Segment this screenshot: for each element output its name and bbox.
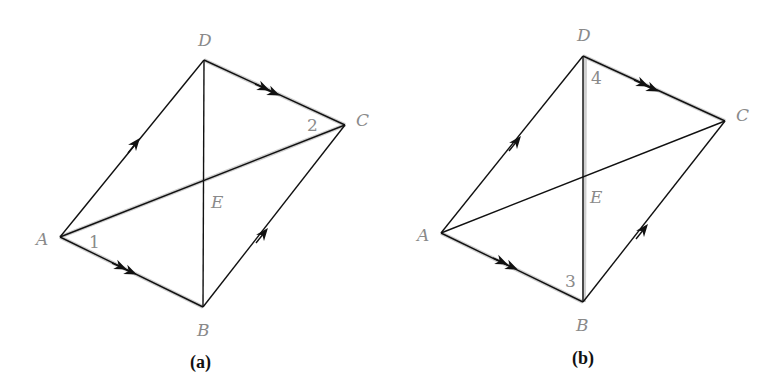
vertex-label-c: C (736, 105, 749, 125)
vertex-label-e: E (210, 192, 224, 212)
vertex-label-a: A (415, 225, 429, 245)
vertex-label-c: C (356, 110, 369, 130)
figure-a: D C A B E 1 2 (a) (34, 30, 369, 373)
angle-label-1: 1 (89, 232, 100, 252)
side-ad (441, 56, 583, 233)
angle-label-3: 3 (565, 271, 576, 291)
side-ab (60, 237, 203, 307)
angle-label-4: 4 (591, 68, 602, 88)
diagonal-ac (60, 125, 345, 237)
diagonal-bd (203, 60, 204, 307)
vertex-label-a: A (34, 229, 48, 249)
vertex-label-d: D (197, 30, 212, 50)
figure-b: D C A B E 4 3 (b) (415, 25, 749, 369)
highlight-diagonal-bd (584, 56, 585, 302)
single-arrow-icon (128, 143, 136, 153)
caption-a: (a) (190, 352, 211, 373)
side-bc (583, 121, 725, 302)
vertex-label-b: B (575, 315, 589, 335)
side-dc (583, 56, 725, 121)
vertex-label-e: E (589, 187, 603, 207)
side-dc (204, 60, 345, 125)
vertex-label-d: D (576, 25, 591, 45)
angle-label-2: 2 (307, 115, 318, 135)
caption-b: (b) (572, 348, 594, 369)
side-ab (441, 233, 583, 302)
diagram-canvas: D C A B E 1 2 (a) D C A B E 4 3 (b) (0, 0, 781, 390)
vertex-label-b: B (196, 320, 210, 340)
